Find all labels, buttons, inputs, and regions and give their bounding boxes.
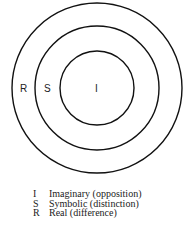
legend-key: R (33, 208, 49, 218)
ring-label-imaginary: I (95, 83, 98, 94)
legend-row-real: R Real (difference) (33, 208, 141, 218)
legend: I Imaginary (opposition) S Symbolic (dis… (33, 189, 141, 218)
legend-text: Real (difference) (49, 208, 117, 218)
ring-label-symbolic: S (44, 83, 51, 94)
ring-label-real: R (20, 83, 27, 94)
